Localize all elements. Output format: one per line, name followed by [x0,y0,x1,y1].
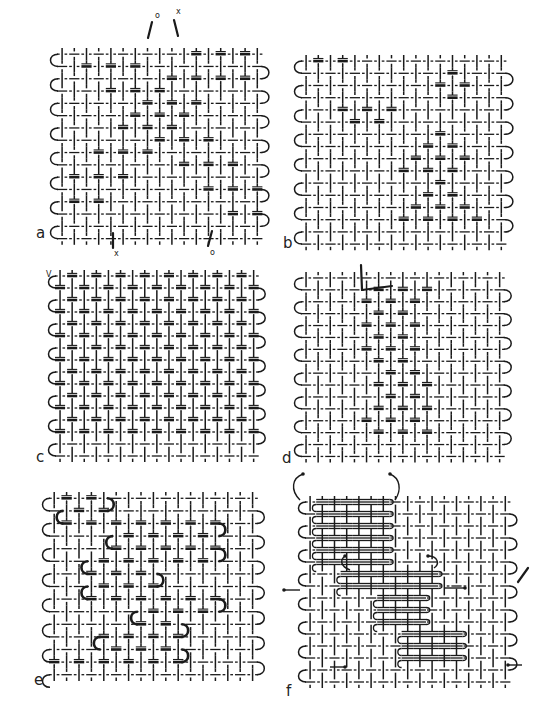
warp-dot [103,664,104,665]
warp-dot [132,362,133,363]
warp-dot [91,525,92,526]
panel-b: b [283,55,513,252]
warp-dot [168,326,169,327]
warp-dot [103,563,104,564]
warp-dot [253,362,254,363]
warp-dot [110,93,111,94]
warp-dot [440,209,441,210]
warp-dot [440,136,441,137]
warp-dot [208,191,209,192]
selvedge-turn-right [257,587,265,600]
selvedge-turn-left [49,324,57,336]
warp-dot [241,350,242,351]
warp-dot [232,216,233,217]
selvedge-turn-left [295,397,303,409]
warp-dot [153,614,154,615]
warp-dot [156,314,157,315]
warp-dot [116,551,117,552]
warp-dot [366,112,367,113]
warp-dot [202,614,203,615]
warp-dot [427,222,428,223]
warp-dot [59,362,60,363]
warp-dot [452,148,453,149]
selvedge-turn-left [299,646,307,658]
warp-dot [168,398,169,399]
weft-meander-turn [107,498,114,511]
warp-dot [120,422,121,423]
warp-dot [180,410,181,411]
warp-dot [84,290,85,291]
selvedge-turn-right [504,385,512,397]
warp-dot [153,563,154,564]
warp-dot [390,327,391,328]
selvedge-turn-left [295,183,303,195]
warp-dot [253,386,254,387]
selvedge-turn-left [51,79,59,91]
warp-dot [140,626,141,627]
warp-dot [168,278,169,279]
warp-dot [108,434,109,435]
warp-dot [66,500,67,501]
warp-dot [71,398,72,399]
warp-dot [108,386,109,387]
warp-dot [156,386,157,387]
warp-dot [241,374,242,375]
selvedge-turn-right [509,658,517,670]
warp-dot [59,434,60,435]
warp-dot [192,374,193,375]
warp-dot [192,302,193,303]
warp-dot [229,410,230,411]
warp-dot [452,197,453,198]
selvedge-turn-right [257,561,265,574]
arrow-head-icon [301,472,305,476]
selvedge-turn-left [299,622,307,634]
warp-dot [190,551,191,552]
selvedge-turn-right [261,189,269,201]
dense-turn-left [337,589,341,596]
warp-dot [132,314,133,315]
selvedge-turn-left [295,445,303,457]
selvedge-turn-right [509,538,517,550]
selvedge-turn-right [261,91,269,103]
warp-dot [190,601,191,602]
warp-dot [253,410,254,411]
selvedge-turn-right [509,586,517,598]
selvedge-turn-left [295,86,303,98]
warp-dot [168,350,169,351]
warp-dot [229,338,230,339]
weaving-figure: oxxoabVcdef [0,0,549,721]
weft-meander-turn [157,574,164,587]
warp-dot [91,576,92,577]
selvedge-turn-right [504,314,512,326]
warp-dot [452,100,453,101]
warp-dot [153,664,154,665]
weft-meander-turn [219,524,226,537]
warp-dot [140,601,141,602]
selvedge-turn-left [295,134,303,146]
dense-turn-left [312,565,316,572]
warp-dot [196,105,197,106]
warp-dot [96,374,97,375]
warp-dot [215,525,216,526]
thread-mark: x [176,7,181,16]
panel-label: f [286,682,292,700]
warp-dot [71,422,72,423]
selvedge-turn-right [258,336,266,348]
warp-dot [180,290,181,291]
warp-dot [391,112,392,113]
selvedge-turn-left [49,348,57,360]
direction-arrow [294,474,303,500]
selvedge-turn-right [261,140,269,152]
warp-dot [108,362,109,363]
warp-dot [342,112,343,113]
warp-dot [171,81,172,82]
warp-dot [120,374,121,375]
selvedge-turn-left [51,226,59,238]
selvedge-turn-left [51,54,59,66]
loose-thread [174,20,178,36]
warp-dot [96,350,97,351]
selvedge-turn-right [258,312,266,324]
dense-turn-left [337,577,341,584]
warp-dot [253,290,254,291]
selvedge-turn-right [505,147,513,159]
